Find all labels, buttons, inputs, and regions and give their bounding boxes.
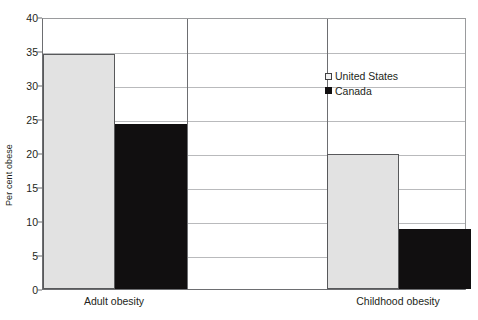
bar-canada-adult-obesity — [115, 124, 187, 289]
chart-legend: United StatesCanada — [325, 71, 398, 96]
y-axis-tick-label: 15 — [16, 183, 38, 194]
y-axis-tick-label: 10 — [16, 217, 38, 228]
y-axis-tick-label: 25 — [16, 115, 38, 126]
legend-entry: Canada — [325, 86, 398, 97]
light-gray-square-icon — [325, 73, 332, 80]
y-axis-tick-label: 40 — [16, 13, 38, 24]
x-axis-category-label: Childhood obesity — [356, 296, 439, 307]
y-axis-tick-label: 5 — [16, 251, 38, 262]
bar-chart: Per cent obese 0510152025303540 Adult ob… — [0, 0, 478, 320]
y-axis-tick-labels: 0510152025303540 — [14, 0, 38, 320]
legend-label: Canada — [335, 86, 372, 97]
plot-area — [42, 18, 466, 290]
bar-united-states-adult-obesity — [43, 54, 115, 289]
x-axis-category-label: Adult obesity — [84, 296, 144, 307]
legend-label: United States — [335, 71, 398, 82]
y-axis-tick-label: 20 — [16, 149, 38, 160]
black-square-icon — [325, 87, 332, 94]
bar-canada-childhood-obesity — [399, 229, 471, 289]
bar-united-states-childhood-obesity — [327, 154, 399, 289]
y-axis-tick-label: 30 — [16, 81, 38, 92]
bars — [43, 19, 465, 289]
y-axis-tick-label: 0 — [16, 285, 38, 296]
y-axis-tick-label: 35 — [16, 47, 38, 58]
legend-entry: United States — [325, 71, 398, 82]
